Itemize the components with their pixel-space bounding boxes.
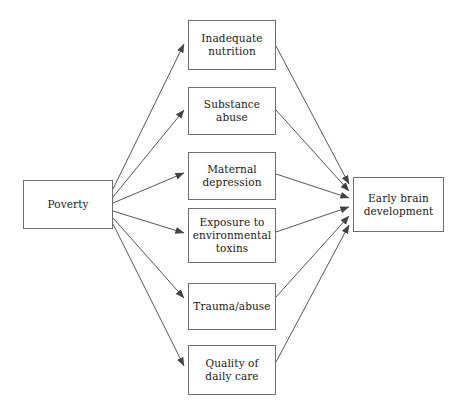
diagram-canvas: Poverty Inadequate nutrition Substance a… [0, 0, 464, 406]
node-early-brain-development-label: Early brain development [361, 192, 437, 218]
edges-to-early-brain-development [276, 46, 349, 362]
node-quality-daily-care-label: Quality of daily care [202, 357, 261, 383]
node-poverty-label: Poverty [45, 198, 92, 211]
node-substance-abuse[interactable]: Substance abuse [188, 87, 276, 135]
node-quality-daily-care[interactable]: Quality of daily care [188, 345, 276, 395]
node-trauma-abuse[interactable]: Trauma/abuse [188, 283, 276, 330]
node-environmental-toxins-label: Exposure to environmental toxins [190, 216, 274, 255]
edge-poverty-to-maternal-depression [113, 173, 184, 203]
node-poverty[interactable]: Poverty [23, 180, 113, 229]
node-substance-abuse-label: Substance abuse [201, 98, 263, 124]
edge-inadequate-nutrition-to-outcome [276, 46, 349, 184]
edge-poverty-to-substance-abuse [113, 110, 184, 197]
edge-poverty-to-inadequate-nutrition [113, 44, 184, 189]
node-inadequate-nutrition[interactable]: Inadequate nutrition [188, 20, 276, 70]
node-trauma-abuse-label: Trauma/abuse [190, 300, 273, 313]
node-early-brain-development[interactable]: Early brain development [353, 177, 444, 232]
edges-from-poverty [113, 44, 184, 366]
edge-substance-abuse-to-outcome [276, 110, 349, 191]
node-inadequate-nutrition-label: Inadequate nutrition [198, 32, 265, 58]
node-environmental-toxins[interactable]: Exposure to environmental toxins [188, 208, 276, 263]
edge-quality-daily-care-to-outcome [276, 225, 349, 362]
node-maternal-depression-label: Maternal depression [199, 163, 264, 189]
edge-poverty-to-quality-daily-care [113, 224, 184, 366]
edge-maternal-depression-to-outcome [276, 174, 349, 198]
node-maternal-depression[interactable]: Maternal depression [188, 152, 276, 200]
